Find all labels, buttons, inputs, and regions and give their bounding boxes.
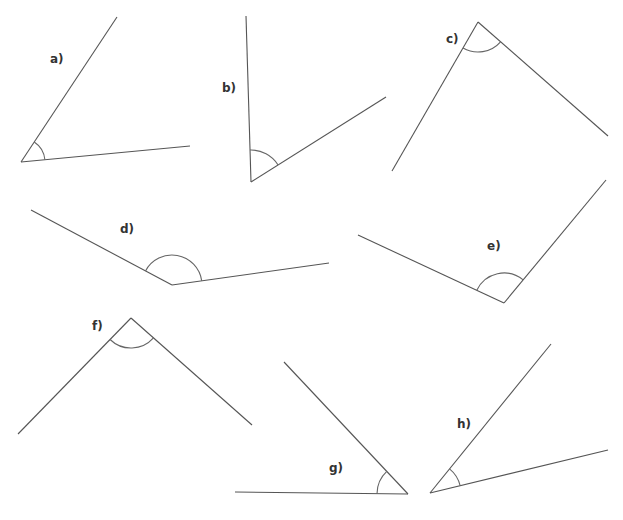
angle-b-ray-2: [251, 97, 386, 182]
angle-b: [246, 16, 386, 182]
angle-e-ray-1: [358, 235, 504, 303]
angle-d-ray-1: [31, 210, 172, 285]
angle-label-d: d): [120, 223, 134, 235]
angle-f: [18, 318, 252, 434]
angle-h-ray-1: [430, 344, 551, 493]
angle-b-ray-1: [246, 16, 251, 182]
angle-g: [235, 362, 408, 494]
angle-e: [358, 180, 606, 303]
angle-a-ray-2: [21, 146, 190, 162]
angle-label-h: h): [457, 418, 471, 430]
angle-a: [21, 17, 190, 162]
angle-label-g: g): [329, 462, 343, 474]
angle-f-arc: [110, 338, 153, 348]
angle-h-arc: [450, 469, 461, 486]
angle-g-arc: [377, 471, 387, 493]
angle-b-arc: [250, 150, 278, 165]
angle-f-ray-1: [18, 318, 131, 434]
angle-label-f: f): [92, 320, 103, 332]
angle-f-ray-2: [131, 318, 252, 425]
angle-label-c: c): [446, 33, 459, 45]
angle-label-e: e): [487, 240, 501, 252]
angle-h-ray-2: [430, 450, 608, 493]
angle-c-arc: [463, 42, 501, 52]
angle-c: [392, 22, 608, 171]
angle-e-ray-2: [504, 180, 606, 303]
angle-g-ray-2: [235, 492, 408, 494]
angle-c-ray-2: [478, 22, 608, 136]
angles-diagram: [0, 0, 623, 520]
angle-d: [31, 210, 329, 285]
angle-a-ray-1: [21, 17, 117, 162]
angle-d-arc: [146, 255, 202, 281]
angle-a-arc: [34, 142, 45, 160]
angle-g-ray-1: [284, 362, 408, 494]
angle-c-ray-1: [392, 22, 478, 171]
angle-label-b: b): [222, 82, 236, 94]
angle-label-a: a): [50, 53, 64, 65]
